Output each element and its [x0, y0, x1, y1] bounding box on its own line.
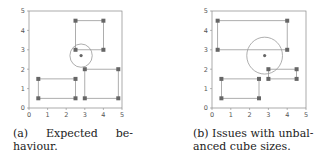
box-outline	[268, 69, 296, 79]
y-tick-label: 0	[204, 104, 208, 112]
corner-marker	[74, 48, 78, 52]
y-tick-label: 4	[204, 27, 208, 35]
corner-marker	[83, 96, 87, 100]
corner-marker	[216, 48, 220, 52]
corner-marker	[74, 19, 78, 23]
caption-a-word2: be-	[116, 127, 133, 140]
x-tick-label: 5	[304, 111, 308, 119]
y-tick-label: 4	[21, 27, 25, 35]
plot-b: 012345012345	[162, 0, 325, 125]
caption-b: (b) Issues with unbal- anced cube sizes.	[193, 127, 318, 153]
corner-marker	[116, 96, 120, 100]
x-tick-label: 1	[46, 111, 50, 119]
caption-b-line2: anced cube sizes.	[193, 140, 318, 153]
figure-a: 012345012345 (a) Expected be- haviour.	[0, 0, 162, 164]
corner-marker	[116, 67, 120, 71]
caption-a-label: (a)	[13, 127, 28, 140]
x-tick-label: 4	[285, 111, 289, 119]
caption-a-line1: (a) Expected be-	[13, 127, 133, 140]
box-outline	[221, 79, 259, 98]
corner-marker	[295, 67, 299, 71]
corner-marker	[74, 96, 78, 100]
y-tick-label: 5	[204, 7, 208, 15]
corner-marker	[74, 77, 78, 81]
corner-marker	[101, 19, 105, 23]
corner-marker	[295, 77, 299, 81]
corner-marker	[216, 19, 220, 23]
caption-a-line2: haviour.	[13, 140, 133, 153]
box-outline	[76, 21, 104, 50]
y-tick-label: 2	[21, 66, 25, 74]
corner-marker	[36, 96, 40, 100]
plot-a: 012345012345	[0, 0, 162, 125]
query-center-point	[263, 54, 266, 57]
x-tick-label: 0	[27, 111, 31, 119]
x-tick-label: 2	[64, 111, 68, 119]
query-center-point	[79, 54, 82, 57]
y-tick-label: 3	[21, 46, 25, 54]
box-outline	[218, 21, 288, 50]
y-tick-label: 2	[204, 66, 208, 74]
x-tick-label: 2	[248, 111, 252, 119]
y-tick-label: 1	[21, 85, 25, 93]
corner-marker	[257, 77, 261, 81]
corner-marker	[266, 77, 270, 81]
corner-marker	[266, 67, 270, 71]
x-tick-label: 4	[101, 111, 105, 119]
y-tick-label: 0	[21, 104, 25, 112]
caption-a-word1: Expected	[46, 127, 98, 140]
figure-b: 012345012345 (b) Issues with unbal- ance…	[162, 0, 325, 164]
x-tick-label: 3	[83, 111, 87, 119]
corner-marker	[219, 96, 223, 100]
y-tick-label: 1	[204, 85, 208, 93]
corner-marker	[285, 48, 289, 52]
y-tick-label: 5	[21, 7, 25, 15]
caption-a: (a) Expected be- haviour.	[13, 127, 133, 153]
box-outline	[85, 69, 118, 98]
corner-marker	[285, 19, 289, 23]
x-tick-label: 3	[266, 111, 270, 119]
corner-marker	[101, 48, 105, 52]
corner-marker	[257, 96, 261, 100]
y-tick-label: 3	[204, 46, 208, 54]
corner-marker	[219, 77, 223, 81]
box-outline	[38, 79, 75, 98]
x-tick-label: 5	[120, 111, 124, 119]
x-tick-label: 1	[229, 111, 233, 119]
corner-marker	[83, 67, 87, 71]
caption-b-line1: (b) Issues with unbal-	[193, 127, 318, 140]
x-tick-label: 0	[210, 111, 214, 119]
corner-marker	[36, 77, 40, 81]
